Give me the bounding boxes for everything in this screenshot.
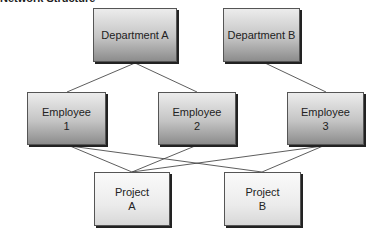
department-a-label: Department A (101, 28, 168, 42)
project-b-label: Project (245, 185, 279, 199)
project-b-node: Project B (224, 172, 301, 226)
edge-depta-emp1 (67, 63, 135, 92)
edge-emp3-proja (132, 146, 323, 172)
project-b-letter: B (259, 199, 266, 213)
department-a-node: Department A (93, 8, 177, 62)
employee-3-node: Employee 3 (287, 92, 364, 145)
department-b-label: Department B (228, 28, 296, 42)
employee-3-label: Employee (301, 105, 350, 119)
department-b-node: Department B (223, 8, 300, 62)
project-a-label: Project (115, 185, 149, 199)
employee-1-number: 1 (63, 119, 69, 133)
project-a-node: Project A (94, 172, 170, 226)
employee-3-number: 3 (322, 119, 328, 133)
project-a-letter: A (128, 199, 135, 213)
employee-2-number: 2 (194, 119, 200, 133)
employee-1-label: Employee (42, 105, 91, 119)
edge-emp1-projb (70, 146, 262, 172)
edge-deptb-emp3 (265, 63, 326, 92)
employee-1-node: Employee 1 (27, 92, 106, 145)
employee-2-node: Employee 2 (158, 92, 236, 145)
edge-depta-emp2 (135, 63, 197, 92)
employee-2-label: Employee (173, 105, 222, 119)
